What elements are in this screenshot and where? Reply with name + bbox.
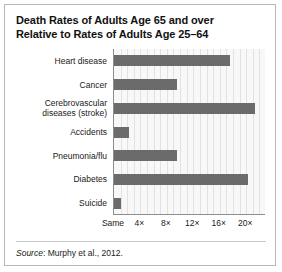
category-label-line: Cancer	[15, 80, 107, 90]
category-label-line: diseases (stroke)	[15, 108, 107, 118]
bar	[114, 150, 177, 161]
category-label-line: Diabetes	[15, 174, 107, 184]
category-label: Diabetes	[15, 174, 107, 184]
source-value: : Murphy et al., 2012.	[43, 248, 123, 258]
category-label-line: Cerebrovascular	[15, 98, 107, 108]
category-axis-labels: Heart diseaseCancerCerebrovasculardiseas…	[16, 49, 111, 215]
chart-title: Death Rates of Adults Age 65 and over Re…	[16, 13, 266, 41]
value-axis-ticks: Same4×8×12×16×20×	[113, 217, 265, 231]
category-label: Pneumonia/flu	[15, 151, 107, 161]
plot-area	[113, 49, 265, 215]
bar	[114, 79, 177, 90]
source-divider	[16, 241, 266, 242]
bar-series	[114, 49, 265, 214]
bar	[114, 103, 255, 114]
category-label: Suicide	[15, 198, 107, 208]
source-label: Source	[16, 248, 43, 258]
tick-label: 20×	[238, 217, 252, 229]
tick-label: Same	[102, 217, 124, 229]
tick-label: 12×	[185, 217, 199, 229]
figure-panel: Death Rates of Adults Age 65 and over Re…	[4, 4, 276, 266]
chart-plot-wrapper: Heart diseaseCancerCerebrovasculardiseas…	[16, 49, 266, 235]
bar	[114, 127, 129, 138]
tick-label: 8×	[161, 217, 171, 229]
bar	[114, 55, 230, 66]
source-note: Source: Murphy et al., 2012.	[16, 248, 123, 259]
bar	[114, 198, 121, 209]
tick-label: 4×	[135, 217, 145, 229]
category-label-line: Suicide	[15, 198, 107, 208]
category-label-line: Pneumonia/flu	[15, 151, 107, 161]
category-label: Heart disease	[15, 56, 107, 66]
category-label-line: Heart disease	[15, 56, 107, 66]
category-label: Accidents	[15, 127, 107, 137]
tick-label: 16×	[212, 217, 226, 229]
category-label-line: Accidents	[15, 127, 107, 137]
bar	[114, 174, 248, 185]
chart-title-line-1: Death Rates of Adults Age 65 and over	[16, 13, 266, 27]
category-label: Cancer	[15, 80, 107, 90]
chart-title-line-2: Relative to Rates of Adults Age 25–64	[16, 27, 266, 41]
category-label: Cerebrovasculardiseases (stroke)	[15, 98, 107, 118]
